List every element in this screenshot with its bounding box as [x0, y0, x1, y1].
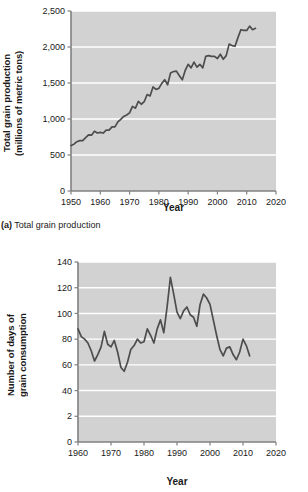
- y-tick-label: 1,500: [42, 78, 65, 88]
- x-tick-label: 2020: [266, 197, 286, 207]
- y-tick-label: 80: [62, 334, 72, 344]
- panel-b-x-ticks: 1960197019801990200020102020: [68, 442, 286, 458]
- x-tick-label: 1990: [167, 448, 187, 458]
- x-tick-label: 2020: [266, 448, 286, 458]
- y-tick-label: 2,000: [42, 42, 65, 52]
- y-tick-label: 0: [60, 186, 65, 196]
- y-tick-label: 1,000: [42, 114, 65, 124]
- panel-a-y-ticks: 05001,0001,5002,0002,500: [42, 6, 71, 196]
- y-tick-label: 2: [67, 411, 72, 421]
- panel-a-caption-prefix: (a): [1, 220, 12, 230]
- y-tick-label: 120: [57, 283, 72, 293]
- panel-b-plot: 02406080100120140 1960197019801990200020…: [0, 245, 308, 492]
- y-tick-label: 40: [62, 386, 72, 396]
- y-tick-label: 100: [57, 309, 72, 319]
- x-tick-label: 1970: [101, 448, 121, 458]
- panel-b-x-axis-label: Year: [166, 476, 187, 487]
- y-tick-label: 140: [57, 257, 72, 267]
- x-tick-label: 2000: [200, 448, 220, 458]
- chart-panel-total-grain-production: Total grain production (millions of metr…: [0, 0, 308, 215]
- x-tick-label: 1970: [120, 197, 140, 207]
- x-tick-label: 1960: [90, 197, 110, 207]
- panel-a-x-axis-label: Year: [163, 202, 184, 213]
- panel-b-y-ticks: 02406080100120140: [57, 257, 78, 447]
- x-tick-label: 1950: [61, 197, 81, 207]
- y-tick-label: 60: [62, 360, 72, 370]
- figure-grain-charts: Total grain production (millions of metr…: [0, 0, 308, 492]
- chart-panel-days-grain-consumption: Number of days of grain consumption 0240…: [0, 245, 308, 492]
- y-tick-label: 0: [67, 437, 72, 447]
- x-tick-label: 1980: [134, 448, 154, 458]
- y-tick-label: 500: [50, 150, 65, 160]
- x-tick-label: 2010: [237, 197, 257, 207]
- x-tick-label: 1960: [68, 448, 88, 458]
- panel-b-plot-background: [78, 262, 276, 442]
- x-tick-label: 2000: [207, 197, 227, 207]
- panel-a-plot-background: [71, 11, 276, 191]
- panel-a-plot: 05001,0001,5002,0002,500 195019601970198…: [0, 0, 308, 215]
- panel-a-caption: (a) Total grain production: [1, 220, 100, 230]
- panel-a-caption-text: Total grain production: [12, 220, 100, 230]
- y-tick-label: 2,500: [42, 6, 65, 16]
- x-tick-label: 2010: [233, 448, 253, 458]
